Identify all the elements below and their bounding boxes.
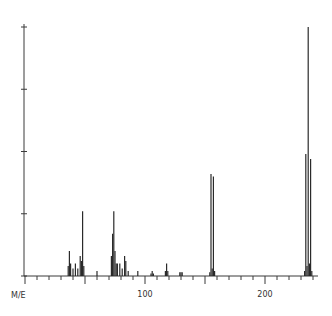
- spectrum-peaks: [68, 27, 312, 276]
- x-tick-label-200: 200: [257, 290, 272, 299]
- mass-spectrum-chart: [0, 0, 332, 316]
- x-tick-label-100: 100: [137, 290, 152, 299]
- x-axis-label: M/E: [11, 291, 26, 300]
- chart-axes: [21, 24, 318, 284]
